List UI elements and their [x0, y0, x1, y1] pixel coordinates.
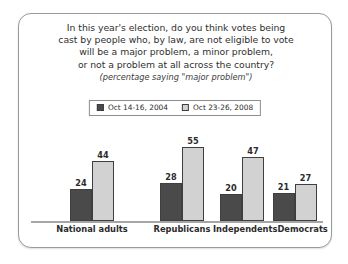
bar-wrap-national-adults-2004[interactable]: 24	[70, 126, 92, 221]
bar-value-democrats-2004: 21	[278, 182, 289, 192]
bar-groups: 24 44 28 55	[33, 126, 318, 221]
bar-wrap-independents-2004[interactable]: 20	[220, 126, 242, 221]
bar-independents-2004[interactable]	[220, 194, 242, 221]
category-label-democrats: Democrats	[277, 224, 327, 234]
bar-republicans-2008[interactable]	[182, 147, 204, 222]
bar-value-national-adults-2004: 24	[75, 178, 86, 188]
bar-value-republicans-2008: 55	[187, 136, 198, 146]
chart-card: In this year's election, do you think vo…	[18, 13, 332, 248]
bar-value-republicans-2004: 28	[165, 172, 176, 182]
bar-group-independents: 20 47	[213, 126, 271, 221]
bar-wrap-democrats-2008[interactable]: 27	[295, 126, 317, 221]
category-label-independents: Independents	[213, 224, 277, 234]
legend-item-2008[interactable]: Oct 23-26, 2008	[182, 103, 253, 112]
bar-group-democrats: 21 27	[271, 126, 318, 221]
legend-swatch-icon-2008	[182, 104, 189, 111]
bar-wrap-national-adults-2008[interactable]: 44	[92, 126, 114, 221]
chart-title-line-4: or not a problem at all across the count…	[29, 59, 323, 71]
bar-democrats-2004[interactable]	[273, 193, 295, 222]
legend-swatch-icon-2004	[97, 104, 104, 111]
chart-subtitle: (percentage saying "major problem")	[29, 71, 323, 84]
category-label-republicans: Republicans	[151, 224, 213, 234]
bar-group-national-adults: 24 44	[33, 126, 151, 221]
chart-plot-area: 24 44 28 55	[33, 126, 318, 221]
bar-wrap-democrats-2004[interactable]: 21	[273, 126, 295, 221]
chart-title-line-1: In this year's election, do you think vo…	[29, 22, 323, 34]
bar-national-adults-2004[interactable]	[70, 189, 92, 222]
category-axis-labels: National adults Republicans Independents…	[33, 224, 318, 234]
bar-democrats-2008[interactable]	[295, 184, 317, 221]
chart-legend: Oct 14-16, 2004 Oct 23-26, 2008	[89, 100, 261, 116]
chart-screenshot: In this year's election, do you think vo…	[0, 0, 348, 264]
chart-title-line-2: cast by people who, by law, are not elig…	[29, 34, 323, 46]
bar-wrap-republicans-2008[interactable]: 55	[182, 126, 204, 221]
category-label-national-adults: National adults	[33, 224, 151, 234]
chart-baseline-axis	[31, 221, 323, 223]
legend-label-2004: Oct 14-16, 2004	[108, 103, 168, 112]
bar-value-national-adults-2008: 44	[97, 150, 108, 160]
bar-national-adults-2008[interactable]	[92, 161, 114, 221]
bar-republicans-2004[interactable]	[160, 183, 182, 221]
bar-value-democrats-2008: 27	[300, 173, 311, 183]
legend-item-2004[interactable]: Oct 14-16, 2004	[97, 103, 168, 112]
legend-label-2008: Oct 23-26, 2008	[193, 103, 253, 112]
bar-value-independents-2008: 47	[247, 146, 258, 156]
bar-value-independents-2004: 20	[225, 183, 236, 193]
bar-wrap-independents-2008[interactable]: 47	[242, 126, 264, 221]
chart-title-block: In this year's election, do you think vo…	[29, 22, 323, 84]
bar-independents-2008[interactable]	[242, 157, 264, 221]
bar-wrap-republicans-2004[interactable]: 28	[160, 126, 182, 221]
bar-group-republicans: 28 55	[151, 126, 213, 221]
chart-title-line-3: will be a major problem, a minor problem…	[29, 46, 323, 58]
